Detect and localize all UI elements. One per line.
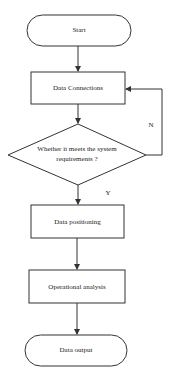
start-label: Start bbox=[27, 26, 131, 35]
decision-label-line2: requirements ? bbox=[8, 155, 146, 164]
data-connections-label: Data Connections bbox=[31, 84, 125, 93]
data-output-label: Data output bbox=[25, 346, 127, 355]
flowchart-canvas bbox=[0, 0, 171, 378]
no-branch-label: N bbox=[146, 121, 156, 130]
operational-analysis-label: Operational analysis bbox=[29, 283, 125, 292]
data-positioning-label: Data positioning bbox=[31, 218, 124, 227]
yes-branch-label: Y bbox=[103, 189, 113, 198]
decision-label-line1: Whether it meets the system bbox=[8, 145, 146, 154]
